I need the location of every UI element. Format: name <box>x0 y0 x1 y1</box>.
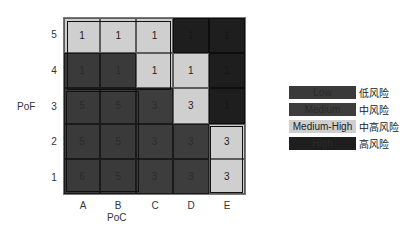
matrix-cell-e1: 3 <box>209 159 245 194</box>
risk-grid: 1111111111553315533365333 <box>63 17 246 195</box>
y-tick-4: 4 <box>49 65 59 76</box>
matrix-cell-b2: 5 <box>100 124 136 159</box>
x-axis-title: PoC <box>107 212 126 223</box>
legend: Low低风险Medium中风险Medium-High中高风险High高风险 <box>289 85 399 153</box>
matrix-cell-b3: 5 <box>100 88 136 123</box>
legend-swatch: Medium-High <box>289 120 356 133</box>
matrix-cell-a4: 1 <box>64 53 100 88</box>
matrix-cell-e4: 1 <box>209 53 245 88</box>
legend-label-cn: 中风险 <box>359 102 389 117</box>
matrix-cell-a1: 6 <box>64 159 100 194</box>
legend-item-medium: Medium中风险 <box>289 102 399 116</box>
matrix-cell-d1: 3 <box>173 159 209 194</box>
legend-swatch: Medium <box>289 103 356 116</box>
matrix-cell-d5: 1 <box>173 18 209 53</box>
matrix-cell-e3: 1 <box>209 88 245 123</box>
legend-swatch: High <box>289 137 356 150</box>
matrix-cell-d3: 3 <box>173 88 209 123</box>
legend-label-cn: 高风险 <box>359 136 389 151</box>
y-tick-1: 1 <box>49 172 59 183</box>
matrix-cell-b5: 1 <box>100 18 136 53</box>
matrix-cell-a3: 5 <box>64 88 100 123</box>
legend-swatch: Low <box>289 86 356 99</box>
matrix-cell-b4: 1 <box>100 53 136 88</box>
matrix-cell-c1: 3 <box>136 159 172 194</box>
y-tick-3: 3 <box>49 101 59 112</box>
legend-item-medhigh: Medium-High中高风险 <box>289 119 399 133</box>
matrix-cell-a2: 5 <box>64 124 100 159</box>
y-tick-5: 5 <box>49 29 59 40</box>
legend-label-cn: 中高风险 <box>359 119 399 134</box>
matrix-cell-c3: 3 <box>136 88 172 123</box>
matrix-cell-a5: 1 <box>64 18 100 53</box>
x-tick-e: E <box>209 200 245 211</box>
matrix-cell-d4: 1 <box>173 53 209 88</box>
x-tick-d: D <box>173 200 209 211</box>
legend-item-low: Low低风险 <box>289 85 399 99</box>
x-tick-c: C <box>137 200 173 211</box>
matrix-cell-c5: 1 <box>136 18 172 53</box>
matrix-cell-c2: 3 <box>136 124 172 159</box>
matrix-cell-e2: 3 <box>209 124 245 159</box>
legend-label-cn: 低风险 <box>359 85 389 100</box>
legend-item-high: High高风险 <box>289 136 399 150</box>
matrix-cell-c4: 1 <box>136 53 172 88</box>
x-tick-b: B <box>100 200 136 211</box>
matrix-cell-d2: 3 <box>173 124 209 159</box>
matrix-cell-e5: 1 <box>209 18 245 53</box>
x-tick-a: A <box>65 200 101 211</box>
matrix-cell-b1: 5 <box>100 159 136 194</box>
y-axis-title: PoF <box>17 101 35 112</box>
y-tick-2: 2 <box>49 136 59 147</box>
